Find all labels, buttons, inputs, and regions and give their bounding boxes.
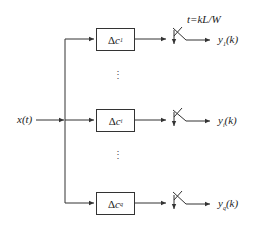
input-label: x(t) xyxy=(17,114,32,125)
delta-symbol: Δ xyxy=(108,198,115,210)
sample-time-label: t=kL/W xyxy=(187,14,221,25)
filter-box-1: Δc1 xyxy=(96,28,135,51)
sampler-switch-q xyxy=(173,191,210,209)
ellipsis-upper: ⋮ xyxy=(113,73,119,76)
filter-box-q: Δcq xyxy=(96,192,135,215)
output-label-i: yi(k) xyxy=(218,115,237,128)
sampler-switch-1 xyxy=(173,27,210,44)
delta-symbol: Δ xyxy=(109,115,116,127)
sampler-switch-i xyxy=(173,108,210,126)
out-arg: (k) xyxy=(226,33,238,45)
box-sub: i xyxy=(121,118,123,124)
box-sub: q xyxy=(120,201,123,207)
out-arg: (k) xyxy=(226,197,238,209)
output-label-q: yq(k) xyxy=(218,198,238,211)
filter-box-i: Δci xyxy=(96,109,135,132)
ellipsis-lower: ⋮ xyxy=(113,153,119,156)
out-arg: (k) xyxy=(225,114,237,126)
output-label-1: y1(k) xyxy=(218,34,238,47)
delta-symbol: Δ xyxy=(108,34,115,46)
box-sub: 1 xyxy=(120,37,123,43)
